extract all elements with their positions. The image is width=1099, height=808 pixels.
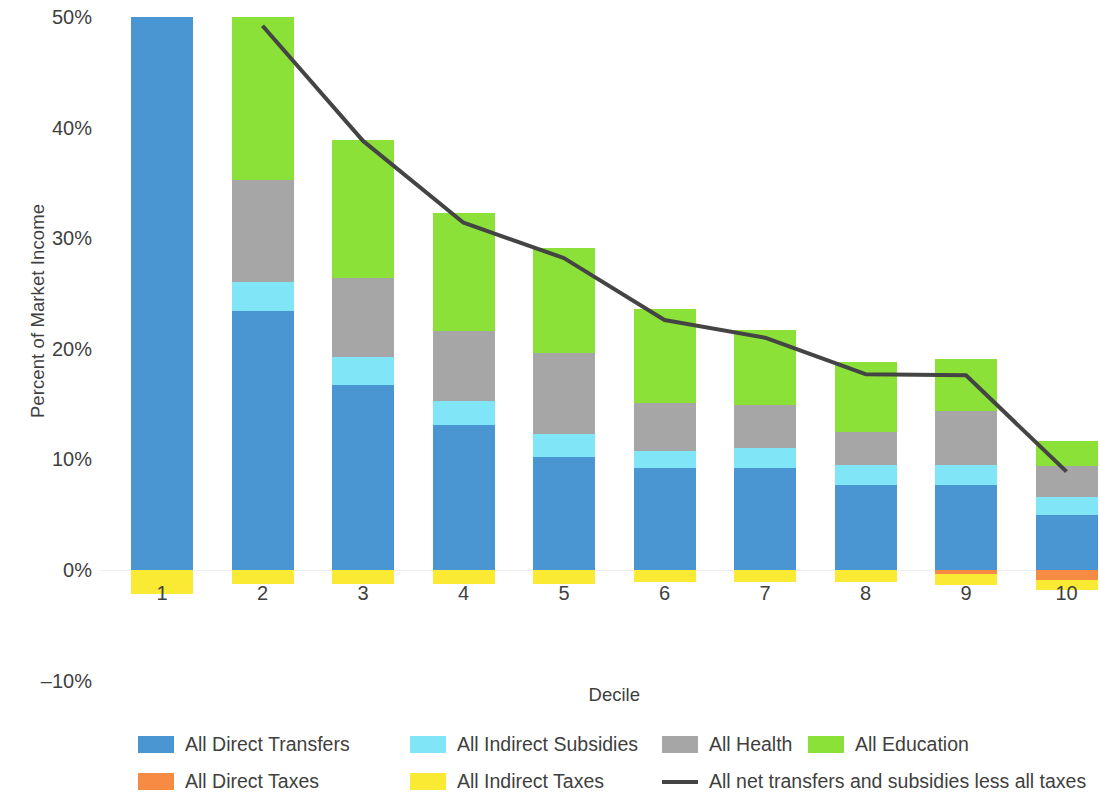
legend-item[interactable]: All Direct Taxes (138, 772, 319, 792)
bar-segment[interactable] (433, 331, 495, 401)
plot-area (100, 0, 1099, 600)
bar-segment[interactable] (935, 465, 997, 485)
bar-segment[interactable] (1036, 466, 1098, 497)
y-tick-label: 40% (18, 118, 92, 138)
legend-item[interactable]: All Direct Transfers (138, 735, 350, 755)
bar-segment[interactable] (433, 213, 495, 331)
legend-item[interactable]: All Education (808, 735, 969, 755)
bar-segment[interactable] (533, 353, 595, 434)
bar-segment[interactable] (634, 570, 696, 582)
y-tick-label: 30% (18, 228, 92, 248)
bar-segment[interactable] (1036, 497, 1098, 515)
x-tick-label: 7 (725, 583, 805, 603)
bar-segment[interactable] (935, 359, 997, 411)
bar-segment[interactable] (1036, 515, 1098, 570)
legend-label: All Indirect Taxes (457, 772, 604, 792)
bar-segment[interactable] (533, 248, 595, 353)
bar-segment[interactable] (634, 309, 696, 403)
bar-segment[interactable] (734, 405, 796, 448)
bar-segment[interactable] (1036, 441, 1098, 466)
bar-group[interactable] (634, 0, 696, 600)
chart-legend: All Direct TransfersAll Indirect Subsidi… (0, 735, 1099, 808)
legend-item[interactable]: All Indirect Subsidies (410, 735, 638, 755)
legend-label: All Direct Taxes (185, 772, 319, 792)
x-tick-label: 10 (1027, 583, 1099, 603)
bar-segment[interactable] (332, 385, 394, 570)
bar-group[interactable] (433, 0, 495, 600)
bar-segment[interactable] (634, 468, 696, 570)
legend-color-swatch (410, 773, 446, 790)
legend-color-swatch (662, 736, 698, 753)
x-tick-label: 3 (323, 583, 403, 603)
bar-segment[interactable] (634, 451, 696, 469)
chart-figure: Percent of Market Income 50%40%30%20%10%… (0, 0, 1099, 808)
bar-segment[interactable] (835, 362, 897, 432)
y-tick-label: 50% (18, 7, 92, 27)
legend-item[interactable]: All Health (662, 735, 792, 755)
bar-segment[interactable] (1036, 570, 1098, 580)
legend-label: All Indirect Subsidies (457, 735, 638, 755)
bar-segment[interactable] (835, 432, 897, 465)
bar-segment[interactable] (232, 311, 294, 570)
bar-group[interactable] (131, 0, 193, 600)
x-tick-label: 4 (424, 583, 504, 603)
bar-segment[interactable] (332, 357, 394, 386)
bar-group[interactable] (332, 0, 394, 600)
bar-segment[interactable] (734, 468, 796, 570)
bar-segment[interactable] (734, 570, 796, 582)
legend-label: All net transfers and subsidies less all… (709, 772, 1086, 792)
bar-group[interactable] (835, 0, 897, 600)
bar-segment[interactable] (433, 401, 495, 425)
legend-label: All Health (709, 735, 792, 755)
legend-item[interactable]: All net transfers and subsidies less all… (662, 772, 1086, 792)
x-tick-label: 5 (524, 583, 604, 603)
bar-segment[interactable] (533, 434, 595, 457)
bar-segment[interactable] (533, 457, 595, 570)
bar-segment[interactable] (935, 485, 997, 570)
bar-segment[interactable] (232, 17, 294, 180)
bar-segment[interactable] (835, 485, 897, 570)
legend-label: All Education (855, 735, 969, 755)
bar-segment[interactable] (232, 282, 294, 311)
x-tick-label: 2 (223, 583, 303, 603)
bar-segment[interactable] (433, 425, 495, 570)
bar-segment[interactable] (332, 278, 394, 357)
bar-segment[interactable] (935, 411, 997, 465)
bar-segment[interactable] (734, 448, 796, 468)
bar-group[interactable] (935, 0, 997, 600)
bar-group[interactable] (1036, 0, 1098, 600)
y-tick-label: 0% (18, 560, 92, 580)
y-tick-label: –10% (18, 671, 92, 691)
x-tick-label: 1 (122, 583, 202, 603)
legend-color-swatch (138, 773, 174, 790)
legend-line-swatch (662, 780, 698, 784)
bar-group[interactable] (734, 0, 796, 600)
x-tick-label: 9 (926, 583, 1006, 603)
y-tick-label: 10% (18, 449, 92, 469)
legend-color-swatch (410, 736, 446, 753)
bar-segment[interactable] (332, 140, 394, 278)
legend-color-swatch (138, 736, 174, 753)
bar-segment[interactable] (634, 403, 696, 451)
bar-group[interactable] (533, 0, 595, 600)
y-axis-title: Percent of Market Income (27, 181, 49, 441)
y-tick-label: 20% (18, 339, 92, 359)
bar-segment[interactable] (835, 570, 897, 582)
bar-segment[interactable] (131, 17, 193, 570)
x-axis-title: Decile (514, 684, 714, 706)
bar-segment[interactable] (232, 180, 294, 283)
x-tick-label: 8 (826, 583, 906, 603)
legend-label: All Direct Transfers (185, 735, 350, 755)
x-tick-label: 6 (625, 583, 705, 603)
bar-segment[interactable] (835, 465, 897, 485)
legend-color-swatch (808, 736, 844, 753)
bar-segment[interactable] (734, 330, 796, 405)
bar-group[interactable] (232, 0, 294, 600)
legend-item[interactable]: All Indirect Taxes (410, 772, 604, 792)
